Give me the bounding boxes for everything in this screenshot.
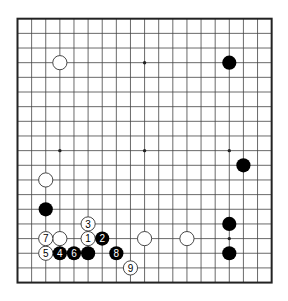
black-stone-move-4: 4 [53,246,67,260]
move-number-label: 4 [57,248,63,259]
black-stone-move-6: 6 [67,246,81,260]
white-stone-icon [180,232,194,246]
black-stone [222,246,236,260]
white-stone-icon [39,173,53,187]
white-stone-move-9: 9 [123,261,137,275]
black-stone-move-2: 2 [95,232,109,246]
white-stone [180,232,194,246]
move-number-label: 3 [85,219,91,230]
star-point-icon [228,237,231,240]
star-point-icon [228,149,231,152]
star-point-icon [143,149,146,152]
go-board: 123456789 [0,0,288,301]
go-board-diagram: 123456789 [0,0,288,301]
white-stone-icon [53,232,67,246]
black-stone [222,56,236,70]
black-stone-icon [222,246,236,260]
white-stone-move-1: 1 [81,232,95,246]
white-stone [39,173,53,187]
black-stone-icon [222,56,236,70]
black-stone-icon [39,202,53,216]
white-stone-move-7: 7 [39,232,53,246]
move-number-label: 8 [114,248,120,259]
white-stone-move-3: 3 [81,217,95,231]
white-stone-icon [137,232,151,246]
white-stone [53,232,67,246]
black-stone-move-8: 8 [109,246,123,260]
black-stone [222,217,236,231]
white-stone [137,232,151,246]
black-stone-icon [222,217,236,231]
move-number-label: 9 [128,263,134,274]
black-stone [39,202,53,216]
white-stone-icon [53,56,67,70]
move-number-label: 5 [43,248,49,259]
white-stone-move-5: 5 [39,246,53,260]
black-stone-icon [81,246,95,260]
black-stone [81,246,95,260]
black-stone-icon [236,158,250,172]
black-stone [236,158,250,172]
move-number-label: 1 [85,233,91,244]
star-point-icon [143,61,146,64]
star-point-icon [58,149,61,152]
move-number-label: 6 [71,248,77,259]
move-number-label: 7 [43,233,49,244]
white-stone [53,56,67,70]
move-number-label: 2 [99,233,105,244]
